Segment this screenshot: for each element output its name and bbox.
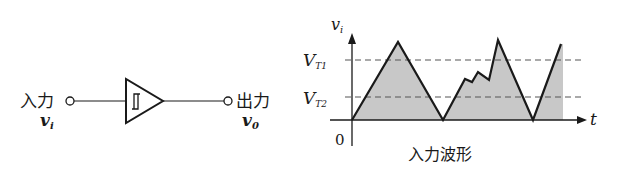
vt1-label: VT1: [303, 50, 327, 71]
input-terminal-icon: [66, 97, 74, 105]
y-axis-label: vi: [331, 15, 343, 35]
input-symbol: vi: [40, 110, 54, 131]
waveform-caption: 入力波形: [408, 145, 472, 164]
circuit-diagram: 入力 vi 出力 v0: [20, 79, 270, 131]
waveform-chart: vi t 0 VT1 VT2 入力波形: [303, 15, 597, 164]
output-terminal-icon: [224, 97, 232, 105]
x-axis-label: t: [590, 109, 597, 129]
buffer-triangle-icon: [126, 79, 163, 123]
vt2-label: VT2: [303, 88, 327, 109]
output-label: 出力: [236, 91, 270, 111]
output-symbol: v0: [242, 110, 259, 131]
diagram-canvas: 入力 vi 出力 v0 vi t 0 VT1 VT2 入力波形: [0, 0, 618, 169]
waveform-area: [352, 40, 563, 120]
input-label: 入力: [20, 91, 54, 111]
origin-label: 0: [335, 131, 345, 149]
y-axis-arrow-icon: [348, 33, 356, 44]
x-axis-arrow-icon: [577, 116, 587, 124]
